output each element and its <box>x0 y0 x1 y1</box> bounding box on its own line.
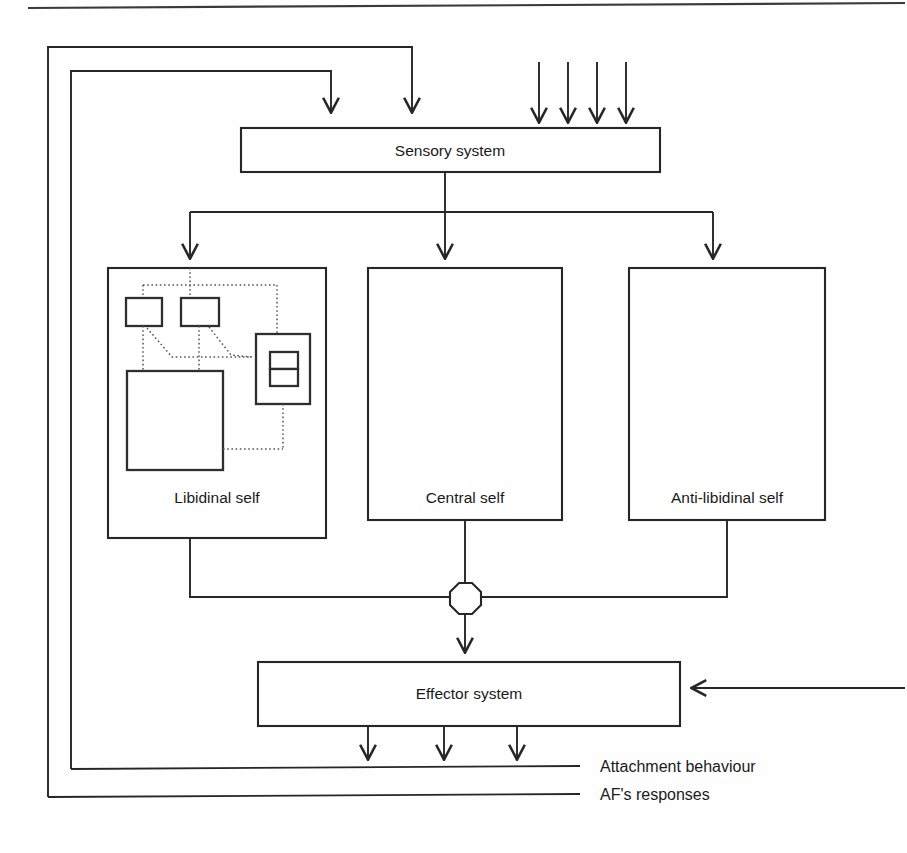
libidinal-node-split-bottom <box>270 369 298 386</box>
attachment-behaviour-label: Attachment behaviour <box>600 758 756 775</box>
attachment-behaviour-rail <box>71 766 580 769</box>
effector-system-label: Effector system <box>416 685 523 702</box>
anti-libidinal-to-junction <box>481 520 727 597</box>
page-top-rule <box>28 3 905 8</box>
libidinal-node-b <box>181 298 219 326</box>
af-responses-label: AF's responses <box>600 786 710 803</box>
libidinal-node-split-top <box>270 352 298 369</box>
central-self-label: Central self <box>426 489 505 506</box>
anti-libidinal-self-box <box>629 268 825 520</box>
figure-canvas: Libidinal self Central self Anti-libidin… <box>0 0 907 853</box>
libidinal-node-a <box>126 298 162 326</box>
sensory-system-label: Sensory system <box>395 142 505 159</box>
anti-libidinal-self-label: Anti-libidinal self <box>671 489 784 506</box>
af-responses-rail <box>48 794 580 797</box>
block-diagram-svg: Libidinal self Central self Anti-libidin… <box>0 0 907 853</box>
libidinal-to-junction <box>190 538 451 597</box>
libidinal-self-label: Libidinal self <box>174 489 260 506</box>
libidinal-node-big <box>127 371 223 470</box>
junction-octagon <box>450 583 481 614</box>
central-self-box <box>368 268 562 520</box>
